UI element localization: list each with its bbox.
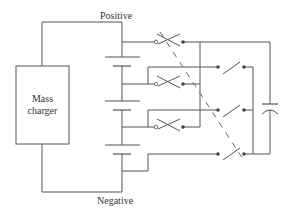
switch-bank-2	[216, 62, 270, 160]
capacitor	[262, 42, 278, 154]
charger-label-line1: Mass	[32, 93, 53, 104]
positive-wire	[42, 22, 122, 66]
tap-4	[122, 154, 218, 171]
negative-label: Negative	[97, 196, 133, 206]
positive-label: Positive	[100, 11, 132, 21]
charger-label-line2: charger	[28, 105, 58, 116]
link-bank2-row2	[148, 110, 218, 127]
battery-stack	[105, 57, 140, 154]
mass-charger-label: Mass charger	[16, 93, 69, 117]
negative-wire	[42, 144, 122, 192]
link-bank2-row1	[148, 67, 218, 84]
linkage	[160, 32, 245, 162]
